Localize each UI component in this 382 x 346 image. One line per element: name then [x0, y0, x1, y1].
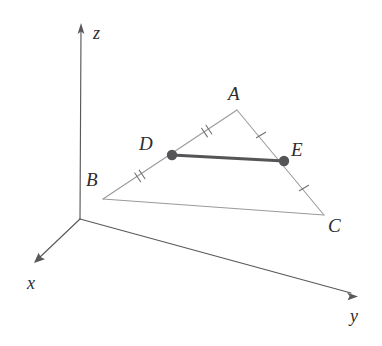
figure-canvas	[0, 0, 382, 346]
y-axis-arrowhead	[347, 293, 358, 301]
triangle-edge-bc	[103, 199, 324, 215]
midpoint-dot-d	[167, 150, 177, 160]
axis-label-y: y	[350, 307, 358, 325]
midsegment-de	[172, 155, 284, 161]
y-axis-line	[80, 219, 351, 293]
axis-label-z: z	[93, 24, 100, 42]
triangle-group	[103, 110, 324, 215]
axis-label-x: x	[27, 274, 35, 292]
axes-group	[34, 23, 358, 300]
vertex-label-a: A	[228, 84, 240, 103]
tick-ec-mark-1	[299, 185, 308, 191]
vertex-label-b: B	[86, 170, 98, 189]
midpoint-dot-e	[279, 156, 289, 166]
z-axis-line	[80, 30, 81, 219]
geometry-figure: A B C D E z x y	[0, 0, 382, 346]
midpoint-label-d: D	[139, 134, 153, 153]
midpoint-label-e: E	[291, 140, 303, 159]
vertex-label-c: C	[328, 216, 341, 235]
midsegment-group	[167, 150, 289, 166]
x-axis-line	[39, 219, 80, 258]
